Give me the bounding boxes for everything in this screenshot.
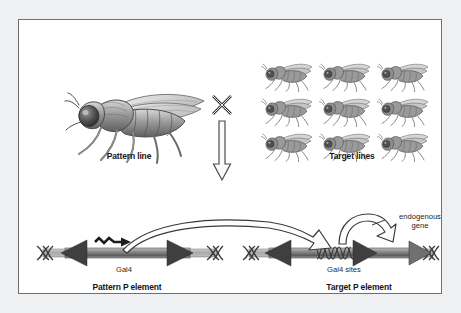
figure-panel: Pattern line — [18, 19, 442, 294]
target-fly-1 — [261, 57, 313, 92]
transactivation-arrow-icon — [119, 216, 339, 256]
target-fly-3 — [377, 57, 429, 92]
target-p-element-caption: Target P element — [289, 282, 429, 292]
p-element-left-repeat — [61, 240, 87, 266]
endogenous-gene-line2: gene — [412, 221, 429, 230]
endogenous-gene-arrow-head — [409, 241, 431, 265]
target-lines-caption: Target lines — [287, 151, 417, 161]
endogenous-gene-label: endogenous gene — [387, 213, 453, 230]
target-fly-2 — [319, 57, 371, 92]
target-fly-6 — [377, 92, 429, 127]
target-fly-4 — [261, 92, 313, 127]
gal4-sites-label: Gal4 sites — [294, 265, 394, 274]
cross-symbol-icon — [209, 92, 235, 118]
gal4-label: Gal4 — [79, 265, 169, 274]
diagram-stage: Pattern line — [19, 20, 441, 293]
down-arrow-icon — [212, 120, 232, 182]
target-fly-5 — [319, 92, 371, 127]
pattern-line-caption: Pattern line — [64, 151, 194, 161]
pattern-p-element-caption: Pattern P element — [57, 282, 197, 292]
